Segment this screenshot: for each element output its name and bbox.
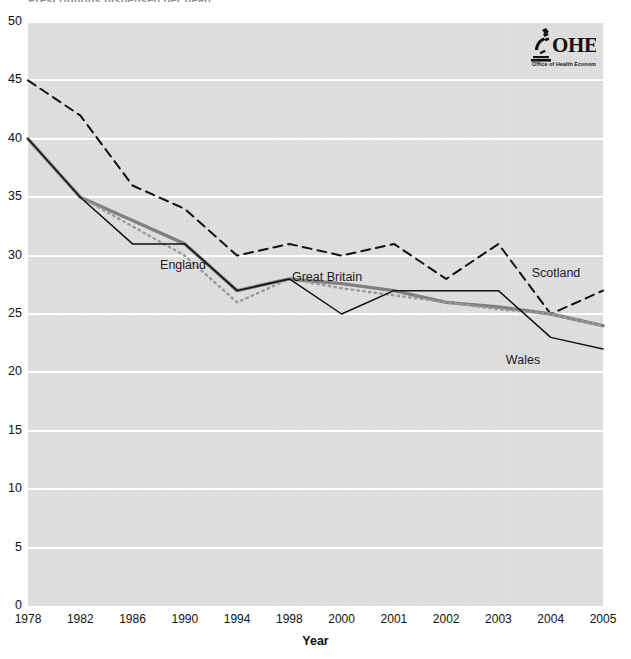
x-axis-title: Year — [0, 634, 631, 648]
series-label-wales: Wales — [506, 353, 540, 367]
x-tick-label: 1982 — [67, 612, 94, 626]
x-tick-label: 1986 — [119, 612, 146, 626]
series-label-england: England — [160, 258, 206, 272]
ohe-subtitle: Office of Health Economics — [532, 61, 596, 67]
y-tick-label: 20 — [0, 365, 22, 378]
y-tick-label: 5 — [0, 541, 22, 554]
x-tick-label: 2005 — [590, 612, 617, 626]
y-tick-label: 45 — [0, 73, 22, 86]
x-tick-label: 1978 — [15, 612, 42, 626]
x-tick-label: 2003 — [485, 612, 512, 626]
microscope-icon — [531, 28, 551, 62]
x-axis-ticks: 1978198219861990199419982000200120022003… — [0, 612, 631, 632]
ohe-acronym: OHE — [552, 33, 596, 57]
series-label-scotland: Scotland — [532, 266, 581, 280]
y-tick-label: 35 — [0, 190, 22, 203]
y-tick-label: 15 — [0, 424, 22, 437]
x-tick-label: 1990 — [171, 612, 198, 626]
x-tick-label: 1998 — [276, 612, 303, 626]
y-tick-label: 50 — [0, 15, 22, 28]
y-tick-label: 25 — [0, 307, 22, 320]
y-tick-label: 10 — [0, 482, 22, 495]
series-label-great-britain: Great Britain — [292, 270, 362, 284]
y-tick-label: 0 — [0, 599, 22, 612]
x-tick-label: 2002 — [433, 612, 460, 626]
x-tick-label: 2000 — [328, 612, 355, 626]
y-tick-label: 40 — [0, 132, 22, 145]
line-chart: Prescriptions dispensed per head 0510152… — [0, 0, 631, 659]
x-tick-label: 2001 — [381, 612, 408, 626]
ohe-logo-graphic: OHE Office of Health Economics — [530, 26, 596, 68]
series-line-england — [28, 139, 603, 326]
ohe-logo: OHE Office of Health Economics — [530, 26, 596, 68]
y-tick-label: 30 — [0, 249, 22, 262]
series-line-great-britain — [28, 139, 603, 326]
cut-off-chart-title: Prescriptions dispensed per head — [28, 0, 211, 2]
x-tick-label: 2004 — [537, 612, 564, 626]
series-line-wales — [28, 139, 603, 349]
series-lines — [28, 22, 603, 606]
x-tick-label: 1994 — [224, 612, 251, 626]
